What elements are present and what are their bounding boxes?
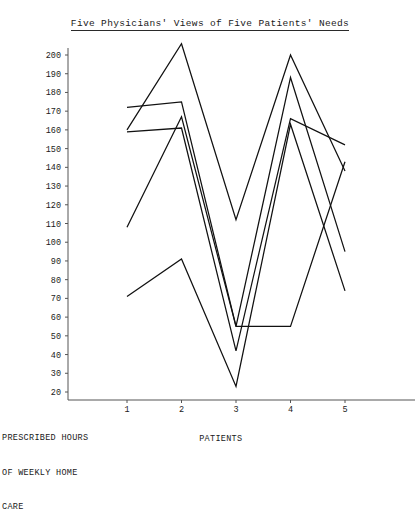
series-line [127,119,345,351]
x-axis-tick-label: 2 [179,405,184,415]
y-axis-tick-label: 170 [46,107,61,117]
series-line [127,77,345,326]
series-line [127,124,345,386]
y-axis-tick-label: 70 [51,294,61,304]
y-axis: 2001901801701601501401301201101009080706… [46,48,68,400]
series-line [127,44,345,220]
x-axis: 12345 [68,400,415,415]
y-axis-tick-label: 90 [51,257,61,267]
y-axis-tick-label: 190 [46,70,61,80]
y-axis-tick-label: 120 [46,201,61,211]
x-axis-tick-label: 5 [342,405,347,415]
y-axis-tick-label: 100 [46,238,61,248]
x-axis-label: PATIENTS [0,422,420,457]
y-axis-tick-label: 80 [51,276,61,286]
y-axis-tick-label: 200 [46,51,61,61]
y-axis-tick-label: 130 [46,182,61,192]
x-axis-tick-label: 4 [288,405,293,415]
x-axis-label-text: PATIENTS [199,434,242,444]
y-axis-tick-label: 160 [46,126,61,136]
y-axis-label-line-3: CARE [2,502,88,513]
y-axis-label-line-2: OF WEEKLY HOME [2,468,88,480]
x-axis-tick-label: 3 [233,405,238,415]
y-axis-tick-label: 150 [46,145,61,155]
x-axis-tick-label: 1 [124,405,129,415]
y-axis-tick-label: 140 [46,163,61,173]
y-axis-tick-label: 20 [51,388,61,398]
y-axis-tick-label: 40 [51,351,61,361]
series-lines [127,44,345,387]
y-axis-tick-label: 110 [46,220,61,230]
y-axis-tick-label: 60 [51,313,61,323]
y-axis-tick-label: 50 [51,332,61,342]
y-axis-tick-label: 180 [46,88,61,98]
y-axis-tick-label: 30 [51,369,61,379]
